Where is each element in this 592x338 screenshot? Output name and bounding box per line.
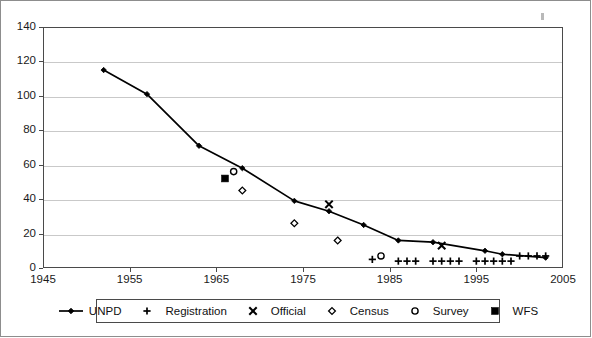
data-point-cross: [249, 307, 256, 314]
x-tick-label: 1945: [21, 274, 65, 286]
x-tick-label: 2005: [541, 274, 585, 286]
gridline: [44, 97, 562, 98]
legend-marker-open-circle-icon: [402, 304, 428, 318]
chart-legend: UNPDRegistrationOfficialCensusSurveyWFS: [96, 299, 500, 323]
legend-label: WFS: [513, 305, 539, 317]
data-point-filled-diamond: [68, 308, 74, 314]
legend-entry-registration[interactable]: Registration: [134, 304, 226, 318]
x-tick-mark: [303, 268, 304, 272]
legend-entry-official[interactable]: Official: [240, 304, 306, 318]
legend-marker-cross-icon: [240, 304, 266, 318]
legend-label: Registration: [165, 305, 226, 317]
legend-label: Official: [271, 305, 306, 317]
legend-marker-open-diamond-icon: [319, 304, 345, 318]
plot-area: [43, 27, 563, 268]
legend-entry-census[interactable]: Census: [319, 304, 389, 318]
legend-marker-filled-diamond-line-icon: [58, 304, 84, 318]
legend-marker-filled-square-icon: [482, 304, 508, 318]
legend-entry-wfs[interactable]: WFS: [482, 304, 539, 318]
y-tick-label: 40: [0, 193, 36, 205]
y-tick-label: 60: [0, 159, 36, 171]
x-tick-label: 1975: [281, 274, 325, 286]
gridline: [44, 62, 562, 63]
legend-label: UNPD: [89, 305, 122, 317]
legend-entry-unpd[interactable]: UNPD: [58, 304, 122, 318]
x-tick-label: 1985: [368, 274, 412, 286]
legend-label: Survey: [433, 305, 469, 317]
data-point-open-diamond: [328, 308, 335, 315]
data-point-filled-square: [491, 308, 498, 315]
data-point-plus: [144, 307, 151, 314]
gridline: [44, 235, 562, 236]
x-tick-mark: [130, 268, 131, 272]
x-tick-label: 1965: [194, 274, 238, 286]
y-tick-label: 20: [0, 228, 36, 240]
x-tick-mark: [216, 268, 217, 272]
legend-marker-plus-icon: [134, 304, 160, 318]
data-point-open-circle: [412, 308, 418, 314]
x-tick-label: 1995: [454, 274, 498, 286]
y-tick-label: 120: [0, 56, 36, 68]
legend-entry-survey[interactable]: Survey: [402, 304, 469, 318]
gridline: [44, 131, 562, 132]
y-tick-label: 80: [0, 125, 36, 137]
x-tick-label: 1955: [108, 274, 152, 286]
y-tick-mark: [39, 268, 43, 269]
gridline: [44, 200, 562, 201]
y-tick-label: 100: [0, 90, 36, 102]
legend-label: Census: [350, 305, 389, 317]
scan-artifact-mark: [541, 13, 544, 20]
y-tick-label: 140: [0, 21, 36, 33]
chart-figure: 020406080100120140 194519551965197519851…: [0, 0, 592, 338]
x-tick-mark: [390, 268, 391, 272]
gridline: [44, 166, 562, 167]
x-tick-mark: [476, 268, 477, 272]
